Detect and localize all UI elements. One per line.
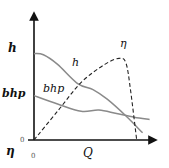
curve-eta <box>34 58 137 140</box>
curve-label-eta: η <box>120 37 127 50</box>
y-label-origin: 0 <box>20 136 24 144</box>
y-label-eta: η <box>6 144 15 158</box>
x-label-origin: 0 <box>31 152 35 160</box>
x-axis-label: Q <box>83 146 93 160</box>
y-label-h: h <box>8 41 17 55</box>
y-label-bhp: bhp <box>2 87 26 100</box>
curve-label-h: h <box>72 56 79 69</box>
curve-label-bhp: bhp <box>43 82 64 95</box>
pump-curves-diagram: h bhp 0 η 0 Q h bhp η <box>0 0 169 168</box>
